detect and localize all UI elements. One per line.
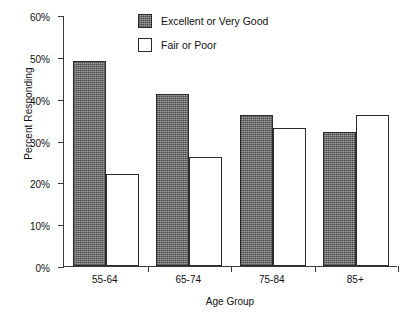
y-axis-tick-label: 10% [30,221,50,232]
bar-85--series-2 [356,115,389,266]
y-axis-title: Percent Responding [23,24,34,204]
y-axis-tick-label: 20% [30,179,50,190]
legend-item-fair-or-poor: Fair or Poor [138,34,268,55]
x-axis-label-85-: 85+ [347,274,364,285]
x-axis-label-55-64: 55-64 [92,274,118,285]
x-axis-tick [398,266,399,272]
x-axis-label-75-84: 75-84 [259,274,285,285]
y-axis-tick-label: 60% [30,12,50,23]
bar-55-64-series-1 [73,61,106,266]
x-axis-tick [315,266,316,272]
bar-55-64-series-2 [106,174,139,266]
y-axis-tick-label: 30% [30,137,50,148]
x-axis-tick [231,266,232,272]
x-axis-title: Age Group [63,296,397,307]
bar-65-74-series-1 [156,94,189,266]
legend-item-excellent-or-very-good: Excellent or Very Good [138,10,268,31]
legend-label-series-1: Excellent or Very Good [161,15,268,27]
y-axis-tick-label: 50% [30,53,50,64]
x-axis-tick [148,266,149,272]
legend-swatch-icon-series-2 [138,38,152,52]
y-axis-tick-label: 0% [36,263,50,274]
bar-75-84-series-1 [240,115,273,266]
y-axis-tick: 0% [58,267,64,268]
x-axis-label-65-74: 65-74 [175,274,201,285]
chart-legend: Excellent or Very Good Fair or Poor [138,10,268,58]
legend-swatch-icon-series-1 [138,14,152,28]
bar-75-84-series-2 [273,128,306,266]
bar-85--series-1 [323,132,356,266]
legend-label-series-2: Fair or Poor [161,39,216,51]
bar-chart: Percent Responding 0%10%20%30%40%50%60% … [0,0,418,330]
bar-65-74-series-2 [189,157,222,266]
y-axis-tick-label: 40% [30,95,50,106]
